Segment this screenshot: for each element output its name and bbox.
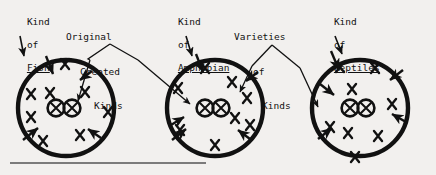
fish-line1: Kind <box>27 16 50 27</box>
reptiles-core-pair <box>342 100 375 117</box>
label-original-created-kinds: Original Created Kinds <box>66 8 123 135</box>
varieties-line2: of <box>234 66 291 78</box>
label-kind-of-reptiles: Kind of Reptiles <box>311 4 380 85</box>
varieties-line3: Kinds <box>234 100 291 112</box>
reptiles-line2: of <box>334 39 345 50</box>
label-kind-of-amphibian: Kind of Amphibian <box>155 4 229 85</box>
amphibian-core-pair <box>197 100 230 117</box>
label-kind-of-fish: Kind of Fish <box>4 4 50 85</box>
original-line3: Kinds <box>66 100 123 112</box>
label-varieties-of-kinds: Varieties of Kinds <box>234 8 291 135</box>
reptiles-line1: Kind <box>334 16 357 27</box>
reptiles-line3: Reptiles <box>334 62 380 73</box>
varieties-line1: Varieties <box>234 31 291 43</box>
original-line2: Created <box>66 66 123 78</box>
figure-canvas: Kind of Fish Original Created Kinds Kind… <box>0 0 436 175</box>
original-line1: Original <box>66 31 123 43</box>
fish-line3: Fish <box>27 62 50 73</box>
amphibian-line3: Amphibian <box>178 62 229 73</box>
amphibian-line2: of <box>178 39 189 50</box>
amphibian-line1: Kind <box>178 16 201 27</box>
fish-line2: of <box>27 39 38 50</box>
